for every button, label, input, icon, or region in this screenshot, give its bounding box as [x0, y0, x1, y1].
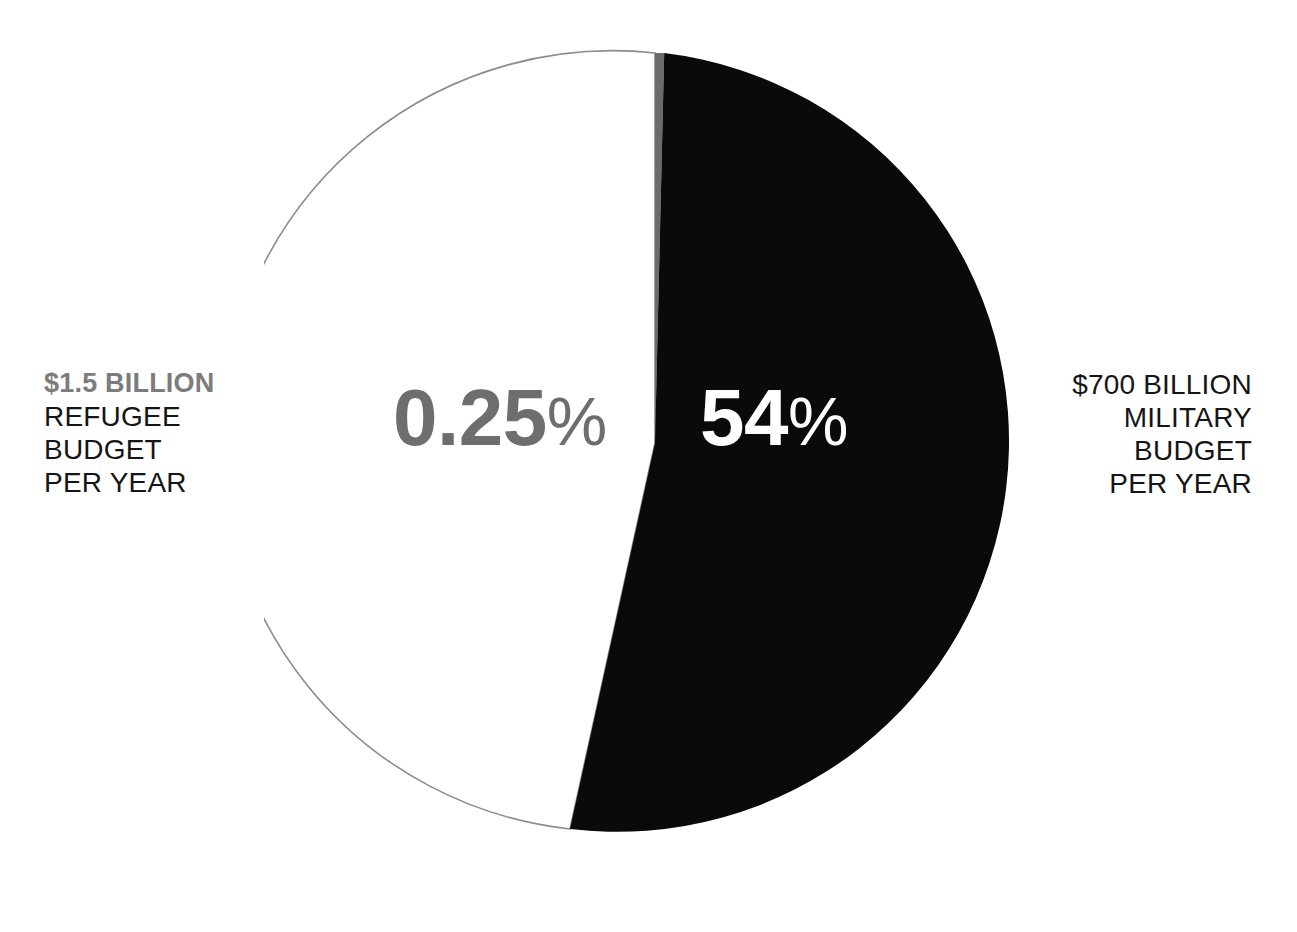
refugee-desc-line-2: BUDGET: [44, 433, 284, 466]
refugee-percent-number: 0.25: [393, 373, 547, 462]
refugee-callout: $1.5 BILLION REFUGEE BUDGET PER YEAR: [44, 368, 284, 499]
pie-chart: [264, 43, 1046, 843]
military-desc-line-2: BUDGET: [992, 434, 1252, 467]
refugee-percent-label: 0.25%: [393, 378, 607, 458]
military-callout: $700 BILLION MILITARY BUDGET PER YEAR: [992, 368, 1252, 500]
infographic-canvas: 0.25% 54% $1.5 BILLION REFUGEE BUDGET PE…: [0, 0, 1297, 932]
refugee-desc-line-3: PER YEAR: [44, 466, 284, 499]
pie-chart-svg: [264, 43, 1046, 843]
refugee-desc-line-1: REFUGEE: [44, 400, 284, 433]
military-desc-line-3: PER YEAR: [992, 467, 1252, 500]
military-percent-sign: %: [788, 383, 848, 459]
military-desc-line-1: MILITARY: [992, 401, 1252, 434]
refugee-percent-sign: %: [547, 383, 607, 459]
refugee-amount: $1.5 BILLION: [44, 368, 284, 400]
military-percent-label: 54%: [700, 378, 848, 458]
military-percent-number: 54: [700, 373, 788, 462]
military-amount: $700 BILLION: [992, 368, 1252, 401]
